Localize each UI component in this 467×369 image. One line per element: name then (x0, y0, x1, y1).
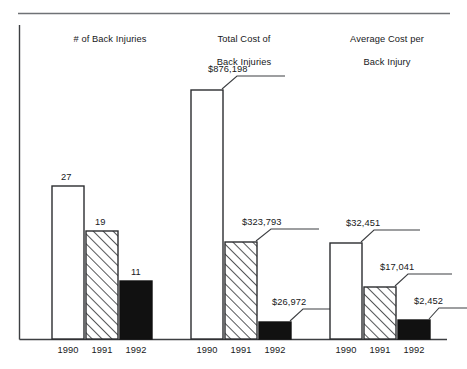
x-tick-p2-1992: 1992 (394, 345, 434, 355)
bar-p1-1992 (259, 322, 291, 339)
leader-line-p1-1991 (256, 229, 319, 241)
value-label-p2-1992: $2,452 (414, 296, 443, 306)
bar-p0-1990 (52, 186, 84, 339)
value-label-p0-1991: 19 (95, 217, 106, 227)
leader-line-p1-1990 (222, 76, 285, 89)
panel-title-back-injuries: # of Back Injuries (40, 23, 180, 46)
bar-p0-1991 (86, 231, 118, 339)
panel-title-line: Average Cost per (350, 34, 424, 44)
value-label-p1-1992: $26,972 (272, 297, 306, 307)
panel-title-line: Total Cost of (218, 34, 271, 44)
panel-title-total-cost: Total Cost of Back Injuries (178, 23, 310, 69)
leader-line-p2-1992 (429, 308, 467, 319)
bar-p2-1990 (330, 243, 362, 339)
leader-line-p2-1991 (395, 274, 452, 286)
value-label-p1-1990: $876,198 (208, 64, 248, 74)
value-label-p0-1992: 11 (131, 267, 141, 277)
value-label-p0-1990: 27 (61, 172, 72, 182)
bar-p0-1992 (120, 281, 152, 339)
value-label-p1-1991: $323,793 (242, 217, 282, 227)
panel-title-line: # of Back Injuries (73, 34, 146, 44)
value-label-p2-1991: $17,041 (380, 262, 414, 272)
x-tick-p1-1992: 1992 (255, 345, 295, 355)
bar-chart-figure: # of Back Injuries Total Cost of Back In… (0, 0, 467, 369)
bar-p1-1991 (225, 242, 257, 339)
leader-line-p2-1990 (361, 230, 420, 242)
bar-p2-1991 (364, 287, 396, 339)
panel-title-average-cost: Average Cost per Back Injury (317, 23, 457, 69)
bar-p1-1990 (191, 90, 223, 339)
value-label-p2-1990: $32,451 (346, 218, 380, 228)
bar-p2-1992 (398, 320, 430, 339)
panel-title-line: Back Injury (363, 57, 410, 67)
x-tick-p0-1992: 1992 (116, 345, 156, 355)
